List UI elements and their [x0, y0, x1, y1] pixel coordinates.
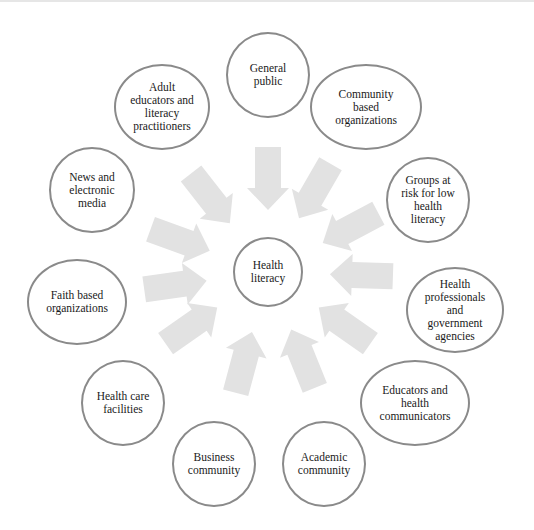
node-general-public: General public — [226, 32, 310, 118]
inward-arrow-icon — [215, 326, 272, 398]
node-community-based-organizations: Community based organizations — [310, 64, 422, 150]
node-adult-educators: Adult educators and literacy practitione… — [114, 64, 210, 150]
node-label: Health professionals and government agen… — [425, 278, 486, 343]
health-literacy-diagram: Health literacy General publicCommunity … — [0, 0, 534, 530]
node-label: News and electronic media — [69, 171, 115, 210]
node-faith-based-organizations: Faith based organizations — [27, 259, 127, 345]
inward-arrow-icon — [329, 253, 393, 297]
node-health-professionals: Health professionals and government agen… — [406, 267, 504, 353]
inward-arrow-icon — [307, 290, 383, 361]
inward-arrow-icon — [247, 147, 289, 210]
center-node-health-literacy: Health literacy — [233, 237, 303, 307]
inward-arrow-icon — [174, 161, 246, 237]
center-node-label: Health literacy — [251, 259, 285, 285]
inward-arrow-icon — [154, 290, 230, 361]
node-label: Faith based organizations — [46, 289, 108, 315]
node-label: Business community — [188, 451, 240, 477]
inward-arrow-icon — [313, 195, 388, 262]
node-educators-health-communicators: Educators and health communicators — [360, 360, 470, 446]
node-academic-community: Academic community — [282, 421, 366, 507]
node-label: Academic community — [298, 451, 350, 477]
node-label: Educators and health communicators — [380, 384, 451, 423]
node-label: General public — [250, 62, 286, 88]
inward-arrow-icon — [141, 260, 209, 310]
node-label: Community based organizations — [335, 88, 397, 127]
node-health-care-facilities: Health care facilities — [81, 360, 165, 446]
node-groups-at-risk: Groups at risk for low health literacy — [386, 157, 470, 243]
node-business-community: Business community — [172, 421, 256, 507]
node-label: Health care facilities — [97, 390, 150, 416]
node-label: Groups at risk for low health literacy — [401, 174, 455, 226]
node-label: Adult educators and literacy practitione… — [130, 81, 194, 133]
inward-arrow-icon — [281, 153, 349, 229]
node-news-electronic-media: News and electronic media — [49, 147, 135, 233]
